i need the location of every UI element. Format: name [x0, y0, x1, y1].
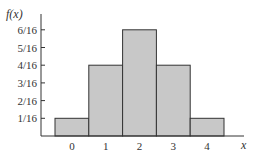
y-tick-label: 3/16: [17, 77, 37, 89]
bar-4: [190, 118, 224, 136]
y-tick-label: 6/16: [17, 24, 37, 36]
x-tick-label: 3: [171, 140, 177, 152]
y-tick-label: 4/16: [17, 59, 37, 71]
x-tick-label: 4: [204, 140, 210, 152]
x-axis-label: x: [240, 138, 247, 152]
bar-2: [123, 30, 157, 136]
x-tick-label: 1: [103, 140, 109, 152]
x-tick-label: 0: [69, 140, 75, 152]
bar-1: [89, 65, 123, 136]
y-tick-label: 5/16: [17, 42, 37, 54]
bar-0: [55, 118, 89, 136]
bar-3: [156, 65, 190, 136]
probability-histogram: 1/162/163/164/165/166/16 01234 f(x) x: [0, 0, 261, 156]
bars: [55, 30, 224, 136]
y-tick-label: 1/16: [17, 112, 37, 124]
y-axis-label: f(x): [6, 7, 23, 21]
x-tick-label: 2: [137, 140, 143, 152]
y-tick-label: 2/16: [17, 95, 37, 107]
x-ticks: 01234: [69, 140, 210, 152]
